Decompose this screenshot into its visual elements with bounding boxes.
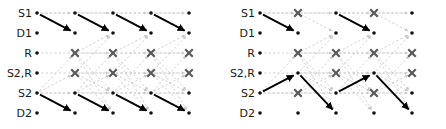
node-dot bbox=[73, 11, 77, 15]
node-dot bbox=[73, 31, 77, 35]
faint-edges bbox=[39, 13, 186, 110]
node-dot bbox=[258, 71, 262, 75]
row-label-s1: S1 bbox=[223, 7, 255, 20]
node-x-mark bbox=[109, 49, 117, 57]
figure-root: S1D1RS2,RS2D2 S1D1RS2,RS2D2 bbox=[0, 0, 446, 129]
node-dot bbox=[296, 31, 300, 35]
faint-edges bbox=[262, 13, 409, 110]
node-dot bbox=[410, 91, 414, 95]
node-dot bbox=[296, 71, 300, 75]
node-dot bbox=[187, 11, 191, 15]
node-dot bbox=[258, 11, 262, 15]
row-label-d1: D1 bbox=[0, 27, 32, 40]
row-label-r: R bbox=[223, 47, 255, 60]
node-dot bbox=[296, 111, 300, 115]
node-x-mark bbox=[408, 49, 416, 57]
node-dot bbox=[372, 71, 376, 75]
node-x-mark bbox=[185, 69, 193, 77]
trellis-canvas-right bbox=[223, 0, 446, 129]
row-label-s2r: S2,R bbox=[223, 67, 255, 80]
node-x-mark bbox=[109, 69, 117, 77]
node-dot bbox=[187, 91, 191, 95]
solid-path-edges bbox=[263, 15, 409, 110]
node-dot bbox=[111, 111, 115, 115]
node-dot bbox=[73, 111, 77, 115]
node-dot bbox=[258, 31, 262, 35]
node-dot bbox=[35, 11, 39, 15]
node-dot bbox=[149, 111, 153, 115]
node-dot bbox=[35, 51, 39, 55]
node-dot bbox=[410, 31, 414, 35]
nodes bbox=[35, 11, 193, 115]
row-label-s2: S2 bbox=[223, 87, 255, 100]
node-x-mark bbox=[408, 69, 416, 77]
node-x-mark bbox=[332, 69, 340, 77]
node-dot bbox=[149, 91, 153, 95]
node-dot bbox=[73, 91, 77, 95]
node-dot bbox=[111, 11, 115, 15]
node-dot bbox=[35, 71, 39, 75]
trellis-canvas-left bbox=[0, 0, 223, 129]
node-dot bbox=[410, 111, 414, 115]
row-label-s1: S1 bbox=[0, 7, 32, 20]
node-dot bbox=[111, 31, 115, 35]
node-dot bbox=[149, 11, 153, 15]
node-dot bbox=[187, 31, 191, 35]
solid-path-edges bbox=[40, 15, 185, 111]
node-x-mark bbox=[332, 49, 340, 57]
node-dot bbox=[258, 111, 262, 115]
row-label-d2: D2 bbox=[0, 107, 32, 120]
node-dot bbox=[35, 31, 39, 35]
node-dot bbox=[334, 91, 338, 95]
node-dot bbox=[410, 11, 414, 15]
row-label-s2: S2 bbox=[0, 87, 32, 100]
row-label-s2r: S2,R bbox=[0, 67, 32, 80]
node-dot bbox=[258, 91, 262, 95]
node-dot bbox=[372, 111, 376, 115]
node-x-mark bbox=[185, 49, 193, 57]
node-dot bbox=[35, 111, 39, 115]
row-label-r: R bbox=[0, 47, 32, 60]
node-dot bbox=[334, 11, 338, 15]
node-dot bbox=[187, 111, 191, 115]
node-dot bbox=[35, 91, 39, 95]
node-dot bbox=[149, 31, 153, 35]
trellis-panel-left: S1D1RS2,RS2D2 bbox=[0, 0, 223, 129]
node-dot bbox=[334, 111, 338, 115]
row-label-d1: D1 bbox=[223, 27, 255, 40]
node-dot bbox=[372, 31, 376, 35]
row-label-d2: D2 bbox=[223, 107, 255, 120]
node-dot bbox=[111, 91, 115, 95]
trellis-panel-right: S1D1RS2,RS2D2 bbox=[223, 0, 446, 129]
node-dot bbox=[258, 51, 262, 55]
node-dot bbox=[334, 31, 338, 35]
